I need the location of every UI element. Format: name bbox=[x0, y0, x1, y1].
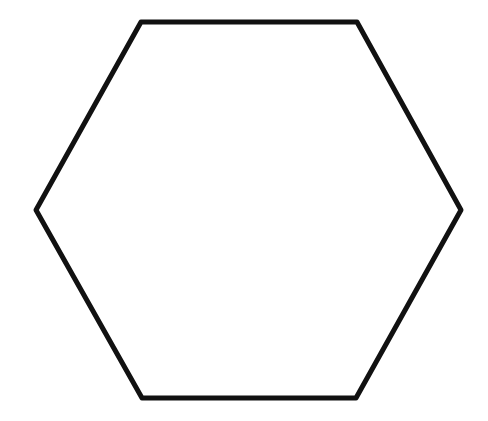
diagram-canvas bbox=[0, 0, 488, 421]
hexagon-shape bbox=[36, 22, 461, 398]
hexagon-diagram bbox=[0, 0, 488, 421]
